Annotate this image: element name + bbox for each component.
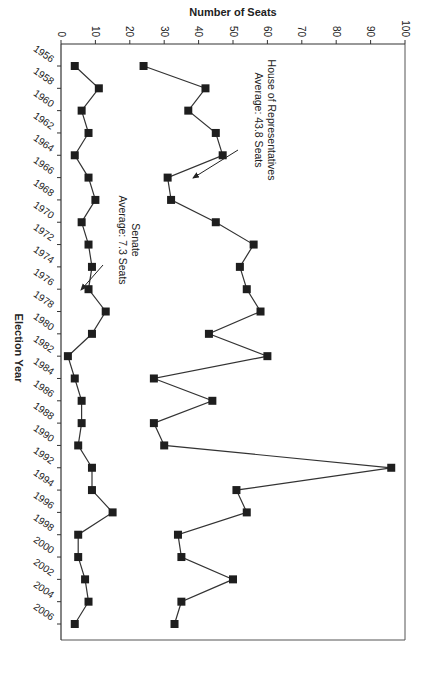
y-tick-label: 60: [262, 26, 273, 38]
data-point-marker: [85, 598, 93, 606]
x-tick-label: 1998: [32, 512, 57, 534]
data-point-marker: [387, 464, 395, 472]
data-point-marker: [174, 531, 182, 539]
data-point-marker: [71, 151, 79, 159]
x-tick-label: 1978: [32, 288, 57, 310]
y-tick-label: 10: [90, 26, 101, 38]
data-point-marker: [78, 397, 86, 405]
y-tick-label: 50: [228, 26, 239, 38]
data-point-marker: [74, 553, 82, 561]
x-tick-label: 1992: [32, 445, 57, 467]
data-point-marker: [81, 575, 89, 583]
y-axis-title: Number of Seats: [189, 6, 276, 18]
y-tick-label: 100: [400, 20, 411, 37]
x-tick-label: 1976: [32, 266, 57, 288]
x-tick-label: 2002: [32, 556, 57, 578]
chart-series: [64, 62, 395, 628]
data-point-marker: [208, 397, 216, 405]
senate-average-annotation: SenateAverage: 7.3 Seats: [117, 195, 142, 284]
data-point-marker: [212, 129, 220, 137]
y-tick-label: 30: [159, 26, 170, 38]
x-tick-label: 1986: [32, 378, 57, 400]
data-point-marker: [205, 330, 213, 338]
x-tick-label: 1996: [32, 489, 57, 511]
y-tick-label: 40: [193, 26, 204, 38]
x-tick-label: 1966: [32, 154, 57, 176]
x-tick-label: 1956: [32, 43, 57, 65]
x-tick-label: 1984: [32, 355, 57, 377]
data-point-marker: [263, 352, 271, 360]
x-tick-label: 2004: [32, 579, 57, 601]
data-point-marker: [91, 196, 99, 204]
data-point-marker: [250, 241, 258, 249]
data-point-marker: [71, 374, 79, 382]
data-point-marker: [212, 218, 220, 226]
data-point-marker: [88, 330, 96, 338]
data-point-marker: [201, 84, 209, 92]
y-tick-label: 70: [296, 26, 307, 38]
data-point-marker: [88, 263, 96, 271]
data-point-marker: [184, 107, 192, 115]
x-tick-label: 1970: [32, 199, 57, 221]
x-tick-label: 1958: [32, 65, 57, 87]
x-tick-label: 1972: [32, 221, 57, 243]
x-tick-label: 1964: [32, 132, 57, 154]
x-tick-label: 1982: [32, 333, 57, 355]
x-tick-label: 1980: [32, 311, 57, 333]
chart-annotations: House of RepresentativesAverage: 43.8 Se…: [81, 60, 278, 290]
y-tick-label: 90: [365, 26, 376, 38]
x-tick-label: 1968: [32, 177, 57, 199]
series-senate: [64, 62, 117, 628]
data-point-marker: [102, 308, 110, 316]
chart-stage: 0102030405060708090100195619581960196219…: [0, 0, 428, 693]
data-point-marker: [150, 419, 158, 427]
x-tick-label: 2006: [32, 601, 57, 623]
data-point-marker: [88, 464, 96, 472]
data-point-marker: [78, 218, 86, 226]
y-tick-label: 0: [56, 31, 67, 37]
data-point-marker: [78, 107, 86, 115]
data-point-marker: [71, 620, 79, 628]
data-point-marker: [160, 441, 168, 449]
data-point-marker: [257, 308, 265, 316]
data-point-marker: [229, 575, 237, 583]
data-point-marker: [236, 263, 244, 271]
data-point-marker: [85, 129, 93, 137]
house-average-annotation: House of RepresentativesAverage: 43.8 Se…: [253, 60, 278, 181]
data-point-marker: [232, 486, 240, 494]
data-point-marker: [85, 285, 93, 293]
x-tick-label: 1990: [32, 422, 57, 444]
x-tick-label: 1974: [32, 244, 57, 266]
data-point-marker: [171, 620, 179, 628]
x-tick-label: 1988: [32, 400, 57, 422]
data-point-marker: [243, 508, 251, 516]
data-point-marker: [167, 196, 175, 204]
data-point-marker: [88, 486, 96, 494]
data-point-marker: [109, 508, 117, 516]
x-tick-label: 1994: [32, 467, 57, 489]
data-point-marker: [85, 241, 93, 249]
x-tick-label: 1962: [32, 110, 57, 132]
data-point-marker: [177, 553, 185, 561]
data-point-marker: [85, 174, 93, 182]
x-tick-label: 2000: [32, 534, 57, 556]
y-tick-label: 80: [331, 26, 342, 38]
x-tick-label: 1960: [32, 88, 57, 110]
data-point-marker: [150, 374, 158, 382]
data-point-marker: [243, 285, 251, 293]
data-point-marker: [164, 174, 172, 182]
x-axis-title: Election Year: [13, 314, 25, 384]
y-tick-label: 20: [124, 26, 135, 38]
data-point-marker: [78, 419, 86, 427]
data-point-marker: [95, 84, 103, 92]
data-point-marker: [140, 62, 148, 70]
data-point-marker: [64, 352, 72, 360]
data-point-marker: [74, 531, 82, 539]
data-point-marker: [71, 62, 79, 70]
line-chart: 0102030405060708090100195619581960196219…: [0, 0, 428, 693]
data-point-marker: [74, 441, 82, 449]
data-point-marker: [177, 598, 185, 606]
